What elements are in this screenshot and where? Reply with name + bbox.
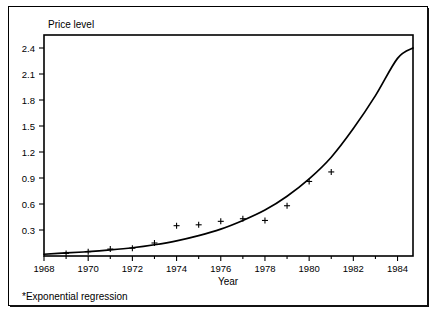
y-tick-label: 2.4 [22, 43, 35, 54]
x-tick-label: 1984 [387, 263, 408, 274]
y-tick-label: 1.5 [22, 121, 35, 132]
y-tick-label: 0.6 [22, 199, 35, 210]
y-axis-title: Price level [48, 19, 94, 30]
x-axis-tick-labels: 196819701972197419761978198019821984 [33, 263, 408, 274]
y-tick-label: 1.2 [22, 147, 35, 158]
x-tick-label: 1972 [122, 263, 143, 274]
x-tick-label: 1978 [254, 263, 275, 274]
price-level-chart: 0.30.60.91.21.51.82.12.4 196819701972197… [0, 0, 436, 313]
plot-area-frame [44, 35, 413, 256]
figure-container: 0.30.60.91.21.51.82.12.4 196819701972197… [0, 0, 436, 313]
y-tick-label: 1.8 [22, 95, 35, 106]
x-tick-label: 1974 [166, 263, 187, 274]
x-tick-label: 1982 [343, 263, 364, 274]
x-axis-title: Year [218, 276, 239, 287]
footnote: *Exponential regression [22, 291, 128, 302]
x-tick-label: 1970 [78, 263, 99, 274]
y-tick-label: 0.3 [22, 225, 35, 236]
y-tick-label: 0.9 [22, 173, 35, 184]
x-tick-label: 1980 [299, 263, 320, 274]
y-tick-label: 2.1 [22, 69, 35, 80]
x-tick-label: 1976 [210, 263, 231, 274]
x-tick-label: 1968 [33, 263, 54, 274]
y-axis-tick-labels: 0.30.60.91.21.51.82.12.4 [22, 43, 35, 236]
